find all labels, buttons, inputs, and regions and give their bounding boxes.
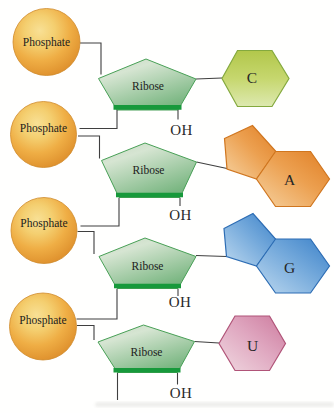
phosphate-to-ribose-bond-line	[80, 43, 101, 75]
ribose-label: Ribose	[133, 164, 165, 176]
phosphate-label: Phosphate	[20, 217, 67, 230]
phosphodiester-bond-line	[81, 198, 120, 226]
glycosidic-bond-line	[196, 256, 227, 257]
phosphate-to-ribose-bond-line	[77, 326, 94, 341]
ribose-label: Ribose	[131, 346, 163, 358]
phosphate-label: Phosphate	[19, 314, 66, 327]
base-c-letter: C	[247, 69, 257, 86]
ribose-label: Ribose	[132, 80, 164, 92]
phosphate-to-ribose-bond-line	[78, 136, 100, 159]
base-g-letter: G	[284, 259, 295, 276]
nucleotide-unit-4: Phosphate Ribose OH U	[10, 289, 286, 401]
glycosidic-bond-line	[197, 162, 228, 169]
phosphate-circle	[10, 293, 77, 360]
hydroxyl-label: OH	[169, 207, 192, 223]
phosphodiester-bond-line	[77, 289, 118, 319]
ribose-label: Ribose	[132, 260, 164, 272]
hydroxyl-label: OH	[170, 385, 193, 401]
phosphate-label: Phosphate	[23, 36, 70, 49]
phosphate-label: Phosphate	[20, 122, 67, 135]
rna-structure-diagram: Phosphate Ribose OH C Phosphate Ribose O…	[0, 0, 334, 413]
phosphate-to-ribose-bond-line	[78, 232, 95, 255]
base-a-letter: A	[284, 171, 296, 188]
phosphodiester-bond-line	[80, 110, 118, 129]
hydroxyl-label: OH	[170, 122, 193, 138]
glycosidic-bond-line	[195, 342, 220, 344]
hydroxyl-label: OH	[169, 294, 192, 310]
diagram-canvas: Phosphate Ribose OH C Phosphate Ribose O…	[0, 0, 334, 413]
phosphate-circle	[11, 102, 77, 168]
scan-artifact	[95, 402, 334, 407]
glycosidic-bond-line	[196, 78, 222, 79]
base-u-letter: U	[247, 337, 258, 354]
phosphate-circle	[11, 198, 77, 264]
